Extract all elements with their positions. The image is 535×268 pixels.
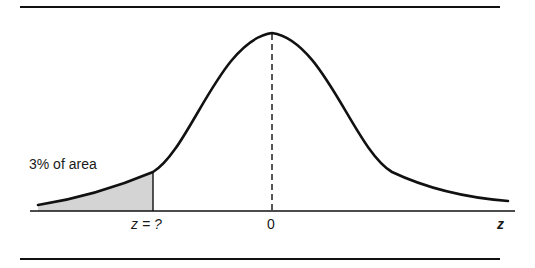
normal-curve-diagram: 3% of area z = ? 0 z (0, 0, 535, 268)
shaded-area-label: 3% of area (29, 156, 97, 172)
normal-curve (38, 33, 508, 205)
z-axis-label: z (496, 216, 504, 232)
z-unknown-label: z = ? (130, 216, 162, 232)
mean-label: 0 (267, 216, 275, 232)
